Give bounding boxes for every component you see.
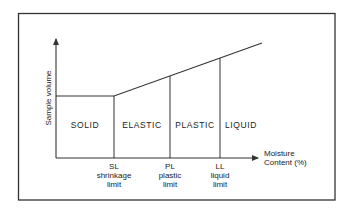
pl-suffix: limit — [163, 180, 178, 189]
sl-suffix: limit — [107, 180, 122, 189]
y-axis-label: Sample volume — [44, 70, 53, 126]
sl-abbr: SL — [109, 162, 119, 171]
region-elastic-label: ELASTIC — [122, 120, 162, 130]
region-liquid-label: LIQUID — [225, 120, 257, 130]
sl-name: shrinkage — [97, 171, 132, 180]
x-axis-label-line1: Moisture — [264, 149, 295, 158]
ll-name: liquid — [211, 171, 230, 180]
pl-abbr: PL — [165, 162, 175, 171]
volume-curve — [56, 43, 262, 96]
x-axis-label-line2: Content (%) — [264, 158, 307, 167]
region-plastic-label: PLASTIC — [175, 120, 215, 130]
region-solid-label: SOLID — [71, 120, 100, 130]
pl-name: plastic — [159, 171, 182, 180]
ll-suffix: limit — [213, 180, 228, 189]
soil-consistency-diagram: Sample volume SOLID ELASTIC PLASTIC LIQU… — [0, 0, 352, 211]
ll-abbr: LL — [216, 162, 225, 171]
